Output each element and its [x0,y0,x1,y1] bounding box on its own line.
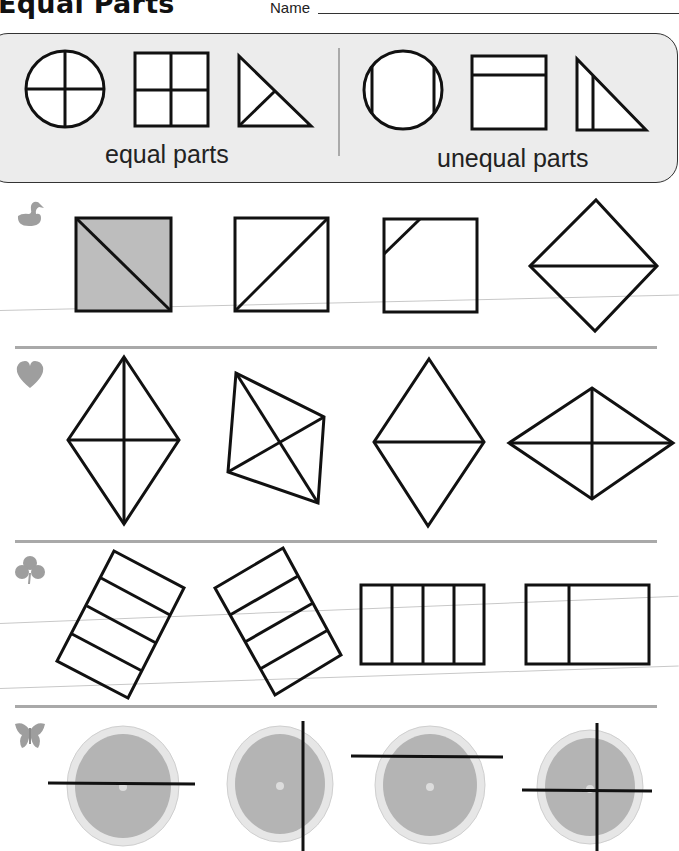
orange-slice-4[interactable] [0,0,679,851]
cut-line [522,790,652,791]
